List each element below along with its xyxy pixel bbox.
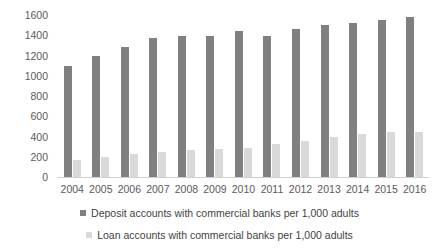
bar-loan-2012[interactable] <box>301 141 309 177</box>
x-axis-tick-label: 2006 <box>115 181 144 197</box>
legend-swatch-icon <box>86 232 92 238</box>
bar-deposit-2006[interactable] <box>121 47 129 177</box>
bar-loan-2004[interactable] <box>73 160 81 177</box>
x-axis-tick-label: 2013 <box>315 181 344 197</box>
bar-group <box>258 15 287 177</box>
legend-item[interactable]: Deposit accounts with commercial banks p… <box>0 202 439 224</box>
y-axis-tick-label: 800 <box>30 89 48 103</box>
x-axis-tick-label: 2007 <box>144 181 173 197</box>
y-axis-tick-label: 1600 <box>25 8 48 22</box>
x-axis-tick-label: 2008 <box>172 181 201 197</box>
bar-loan-2011[interactable] <box>272 144 280 177</box>
legend-item-label: Deposit accounts with commercial banks p… <box>91 207 359 219</box>
bar-group <box>144 15 173 177</box>
bar-group <box>229 15 258 177</box>
y-axis-tick-label: 1000 <box>25 69 48 83</box>
bar-deposit-2016[interactable] <box>406 17 414 177</box>
bar-group <box>115 15 144 177</box>
bar-group <box>87 15 116 177</box>
bar-loan-2013[interactable] <box>330 137 338 177</box>
bar-deposit-2005[interactable] <box>92 56 100 178</box>
x-axis-tick-label: 2009 <box>201 181 230 197</box>
bar-deposit-2009[interactable] <box>206 36 214 177</box>
bar-deposit-2012[interactable] <box>292 29 300 177</box>
bar-loan-2007[interactable] <box>158 152 166 177</box>
bar-deposit-2015[interactable] <box>378 20 386 177</box>
bars-layer <box>58 15 429 177</box>
bar-group <box>201 15 230 177</box>
bar-loan-2005[interactable] <box>101 157 109 177</box>
x-axis-tick-label: 2010 <box>229 181 258 197</box>
x-axis: 2004200520062007200820092010201120122013… <box>58 181 429 197</box>
y-axis-tick-label: 600 <box>30 109 48 123</box>
y-axis-tick-label: 1400 <box>25 28 48 42</box>
y-axis: 16001400120010008006004002000 <box>0 8 52 184</box>
bar-group <box>286 15 315 177</box>
bar-group <box>315 15 344 177</box>
y-axis-tick-label: 1200 <box>25 49 48 63</box>
bar-group <box>343 15 372 177</box>
x-axis-tick-label: 2016 <box>400 181 429 197</box>
legend-item[interactable]: Loan accounts with commercial banks per … <box>0 224 439 246</box>
y-axis-tick-label: 400 <box>30 130 48 144</box>
bar-deposit-2014[interactable] <box>349 23 357 177</box>
bar-deposit-2008[interactable] <box>178 36 186 177</box>
legend: Deposit accounts with commercial banks p… <box>0 202 439 246</box>
bar-deposit-2010[interactable] <box>235 31 243 177</box>
bar-loan-2006[interactable] <box>130 154 138 177</box>
legend-item-label: Loan accounts with commercial banks per … <box>97 229 353 241</box>
y-axis-tick-label: 0 <box>42 170 48 184</box>
bar-chart: 16001400120010008006004002000 2004200520… <box>0 0 439 248</box>
x-axis-tick-label: 2012 <box>286 181 315 197</box>
bar-loan-2016[interactable] <box>415 132 423 177</box>
bar-group <box>172 15 201 177</box>
bar-loan-2015[interactable] <box>387 132 395 177</box>
x-axis-tick-label: 2011 <box>258 181 287 197</box>
bar-deposit-2007[interactable] <box>149 38 157 177</box>
x-axis-tick-label: 2015 <box>372 181 401 197</box>
bar-deposit-2004[interactable] <box>64 66 72 177</box>
y-axis-tick-label: 200 <box>30 150 48 164</box>
x-axis-tick-label: 2005 <box>87 181 116 197</box>
bar-deposit-2011[interactable] <box>263 36 271 177</box>
bar-group <box>372 15 401 177</box>
bar-loan-2009[interactable] <box>215 149 223 177</box>
x-axis-tick-label: 2004 <box>58 181 87 197</box>
x-axis-line <box>58 177 429 178</box>
bar-group <box>400 15 429 177</box>
bar-loan-2008[interactable] <box>187 150 195 177</box>
legend-swatch-icon <box>80 210 86 216</box>
bar-deposit-2013[interactable] <box>321 25 329 177</box>
x-axis-tick-label: 2014 <box>343 181 372 197</box>
bar-loan-2010[interactable] <box>244 148 252 177</box>
bar-group <box>58 15 87 177</box>
bar-loan-2014[interactable] <box>358 134 366 177</box>
plot-area <box>58 15 429 177</box>
